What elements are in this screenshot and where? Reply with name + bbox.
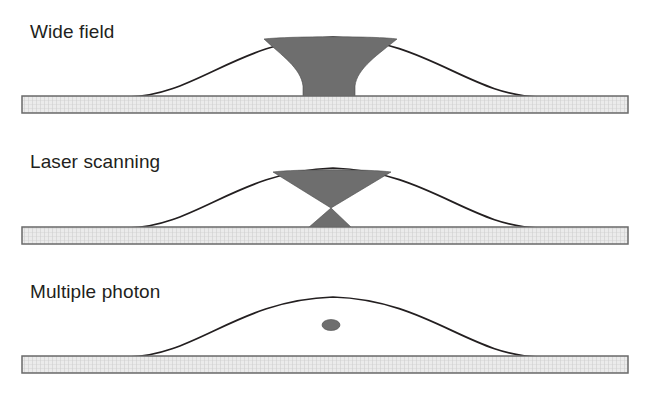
illumination-modes-figure: Wide field Laser scanning Multiple photo… bbox=[0, 0, 658, 393]
panel-laser-scanning: Laser scanning bbox=[22, 151, 628, 244]
substrate-slab-laser-scanning bbox=[22, 227, 628, 244]
panel-multiple-photon: Multiple photon bbox=[22, 281, 628, 373]
panel-label-laser-scanning: Laser scanning bbox=[30, 151, 160, 172]
substrate-slab-wide-field bbox=[22, 96, 628, 113]
panel-label-multiple-photon: Multiple photon bbox=[30, 281, 160, 302]
substrate-slab-multiple-photon bbox=[22, 356, 628, 373]
panel-label-wide-field: Wide field bbox=[30, 21, 114, 42]
excitation-upper-cone-laser-scanning bbox=[273, 170, 391, 208]
panel-wide-field: Wide field bbox=[22, 21, 628, 113]
excitation-volume-wide-field bbox=[264, 37, 397, 97]
excitation-lower-cone-laser-scanning bbox=[308, 208, 352, 228]
excitation-focal-spot-multiple-photon bbox=[322, 320, 340, 331]
